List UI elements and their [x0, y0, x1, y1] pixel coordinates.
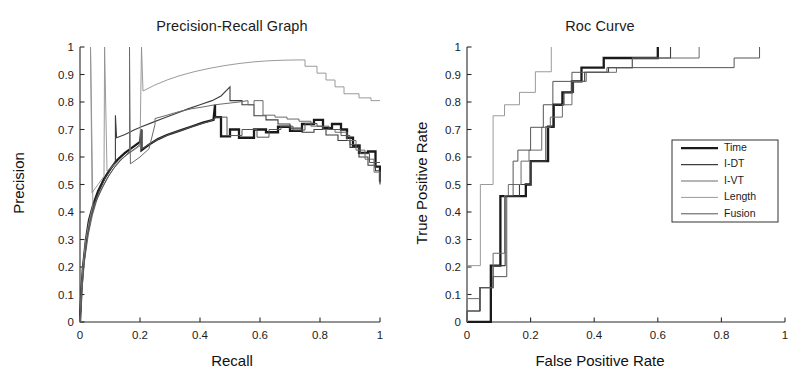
chart-title-roc: Roc Curve	[565, 18, 634, 34]
pr-ytick-3: 0.3	[58, 234, 74, 246]
pr-ytick-4: 0.4	[58, 206, 75, 218]
pr-ytick-6: 0.6	[58, 151, 74, 163]
roc-yaxis-title: True Positive Rate	[413, 122, 430, 245]
pr-xtick-4: 0.8	[312, 329, 328, 341]
pr-ytick-1: 0.1	[58, 289, 74, 301]
legend-label-fusion[interactable]: Fusion	[724, 207, 756, 219]
roc-ytick-2: 0.2	[445, 261, 461, 273]
roc-series-i-vt	[467, 47, 699, 322]
panel-roc: Roc Curve 00.10.20.30.40.50.60.70.80.910…	[405, 0, 810, 376]
legend-label-i-vt[interactable]: I-VT	[724, 174, 744, 186]
roc-xtick-0: 0	[464, 329, 470, 341]
pr-xtick-0: 0	[77, 329, 83, 341]
pr-xtick-2: 0.4	[192, 329, 209, 341]
roc-xtick-1: 0.2	[523, 329, 539, 341]
roc-xtick-5: 1	[782, 329, 788, 341]
roc-ytick-7: 0.7	[445, 124, 461, 136]
pr-ytick-0: 0	[68, 316, 74, 328]
roc-ytick-5: 0.5	[445, 179, 461, 191]
legend-label-length[interactable]: Length	[724, 190, 756, 202]
pr-xtick-3: 0.6	[252, 329, 268, 341]
legend[interactable]: TimeI-DTI-VTLengthFusion	[672, 140, 778, 222]
legend-label-i-dt[interactable]: I-DT	[724, 157, 745, 169]
chart-title-precision-recall: Precision-Recall Graph	[156, 18, 307, 34]
pr-xaxis-title: Recall	[211, 352, 253, 369]
roc-xtick-3: 0.6	[650, 329, 666, 341]
panel-precision-recall: Precision-Recall Graph 00.10.20.30.40.50…	[0, 0, 405, 376]
pr-yaxis-title: Precision	[10, 152, 27, 214]
roc-ytick-0: 0	[455, 316, 461, 328]
pr-series-group	[80, 47, 380, 322]
pr-ytick-8: 0.8	[58, 96, 74, 108]
pr-xtick-5: 1	[377, 329, 383, 341]
roc-ytick-3: 0.3	[445, 234, 461, 246]
precision-recall-chart-svg: Precision-Recall Graph 00.10.20.30.40.50…	[0, 0, 405, 376]
pr-series-time	[80, 105, 380, 322]
roc-chart-svg: Roc Curve 00.10.20.30.40.50.60.70.80.910…	[405, 0, 811, 376]
pr-series-i-dt	[80, 87, 380, 322]
pr-tick-labels: 00.10.20.30.40.50.60.70.80.9100.20.40.60…	[58, 41, 383, 341]
pr-ytick-2: 0.2	[58, 261, 74, 273]
pr-plot-area: 00.10.20.30.40.50.60.70.80.9100.20.40.60…	[58, 41, 383, 341]
roc-ytick-6: 0.6	[445, 151, 461, 163]
roc-ytick-1: 0.1	[445, 289, 461, 301]
roc-ytick-9: 0.9	[445, 69, 461, 81]
pr-ytick-9: 0.9	[58, 69, 74, 81]
legend-label-time[interactable]: Time	[724, 141, 747, 153]
figure-root: Precision-Recall Graph 00.10.20.30.40.50…	[0, 0, 811, 376]
roc-series-time	[467, 47, 658, 322]
pr-ytick-7: 0.7	[58, 124, 74, 136]
roc-ytick-10: 1	[455, 41, 461, 53]
roc-xtick-4: 0.8	[713, 329, 729, 341]
roc-xaxis-title: False Positive Rate	[535, 352, 664, 369]
roc-series-i-dt	[467, 47, 671, 322]
roc-ytick-4: 0.4	[445, 206, 462, 218]
pr-ytick-10: 1	[68, 41, 74, 53]
pr-series-fusion	[80, 117, 380, 322]
roc-xtick-2: 0.4	[586, 329, 603, 341]
roc-ytick-8: 0.8	[445, 96, 461, 108]
pr-ytick-5: 0.5	[58, 179, 74, 191]
pr-xtick-1: 0.2	[132, 329, 148, 341]
